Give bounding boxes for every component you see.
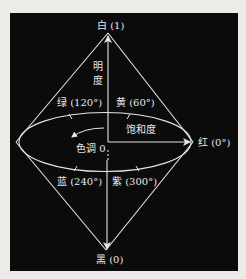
label-blue: 蓝 (240°): [57, 176, 102, 187]
label-saturation: 饱和度: [126, 124, 156, 135]
label-brightness-2: 度: [93, 75, 103, 86]
label-red: 红 (0°): [198, 137, 230, 148]
label-brightness-1: 明: [93, 61, 103, 72]
hue-arrow: [72, 128, 104, 137]
label-hue: 色调 0: [76, 143, 106, 154]
label-white: 白 (1): [97, 20, 124, 31]
label-green: 绿 (120°): [57, 97, 102, 108]
label-black: 黑 (0): [96, 254, 123, 265]
label-purple: 紫 (300°): [112, 176, 157, 187]
label-yellow: 黄 (60°): [116, 97, 155, 108]
